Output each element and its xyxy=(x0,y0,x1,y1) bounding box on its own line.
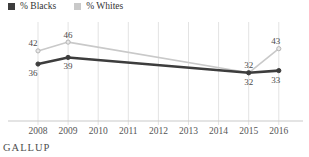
svg-text:2013: 2013 xyxy=(179,126,198,136)
svg-text:2016: 2016 xyxy=(269,126,288,136)
legend-item-whites: % Whites xyxy=(74,2,123,12)
gallup-trend-chart: 2008200920102011201220132014201520164246… xyxy=(0,0,309,157)
svg-text:2010: 2010 xyxy=(89,126,108,136)
svg-text:32: 32 xyxy=(244,60,253,70)
legend-label-whites: % Whites xyxy=(86,2,123,12)
chart-plot-area: 2008200920102011201220132014201520164246… xyxy=(0,0,309,157)
svg-text:2012: 2012 xyxy=(149,126,168,136)
svg-text:36: 36 xyxy=(29,68,39,78)
chart-legend: % Blacks % Whites xyxy=(8,2,123,12)
svg-text:2011: 2011 xyxy=(119,126,138,136)
svg-text:2014: 2014 xyxy=(209,126,228,136)
whites-series-swatch-icon xyxy=(74,3,81,10)
svg-text:33: 33 xyxy=(271,75,281,85)
svg-text:46: 46 xyxy=(64,30,74,40)
svg-text:42: 42 xyxy=(29,38,38,48)
legend-label-blacks: % Blacks xyxy=(20,2,56,12)
svg-text:43: 43 xyxy=(271,36,281,46)
legend-item-blacks: % Blacks xyxy=(8,2,56,12)
blacks-series-swatch-icon xyxy=(8,3,15,10)
svg-text:39: 39 xyxy=(64,61,74,71)
svg-text:2008: 2008 xyxy=(29,126,48,136)
svg-text:2015: 2015 xyxy=(239,126,258,136)
svg-text:32: 32 xyxy=(244,77,253,87)
gallup-wordmark: GALLUP xyxy=(3,143,50,154)
svg-text:2009: 2009 xyxy=(59,126,78,136)
